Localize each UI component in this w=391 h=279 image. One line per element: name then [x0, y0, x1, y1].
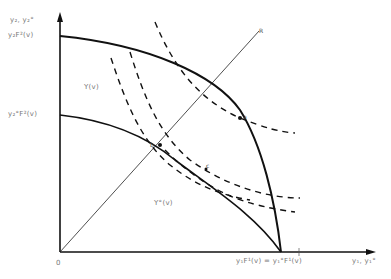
- y-tick-inner: y₂°F²(v): [8, 111, 37, 118]
- y-axis-label: y₂, y₂°: [10, 17, 34, 24]
- x-tick-label: y₁F¹(v) = y₁°F¹(v): [236, 258, 302, 265]
- point-a-marker: [238, 116, 242, 120]
- x-axis-label: y₁, y₁°: [352, 258, 376, 265]
- outer-frontier-curve: [60, 36, 281, 252]
- x-axis-arrow-icon: [366, 249, 376, 255]
- point-b-marker: [158, 143, 162, 147]
- y-tick-outer: y₂F²(v): [8, 32, 34, 39]
- ray-R: [60, 31, 259, 252]
- point-c-label: c: [206, 163, 209, 169]
- ppf-diagram: [0, 0, 391, 279]
- y-axis-arrow-icon: [57, 12, 63, 22]
- point-a-label: a: [243, 114, 247, 120]
- dashed-curve-a: [155, 22, 295, 133]
- region-outer-label: Y(v): [84, 84, 99, 91]
- dashed-curve-c: [165, 150, 295, 212]
- region-inner-label: Y°(v): [154, 200, 173, 207]
- ray-label: R: [259, 28, 263, 34]
- inner-frontier-curve: [60, 115, 281, 252]
- axes: [57, 12, 376, 255]
- dashed-curve-b1: [111, 58, 250, 200]
- origin-label: 0: [56, 260, 61, 267]
- dashed-curve-b2: [130, 52, 300, 198]
- point-b-label: b: [150, 142, 154, 148]
